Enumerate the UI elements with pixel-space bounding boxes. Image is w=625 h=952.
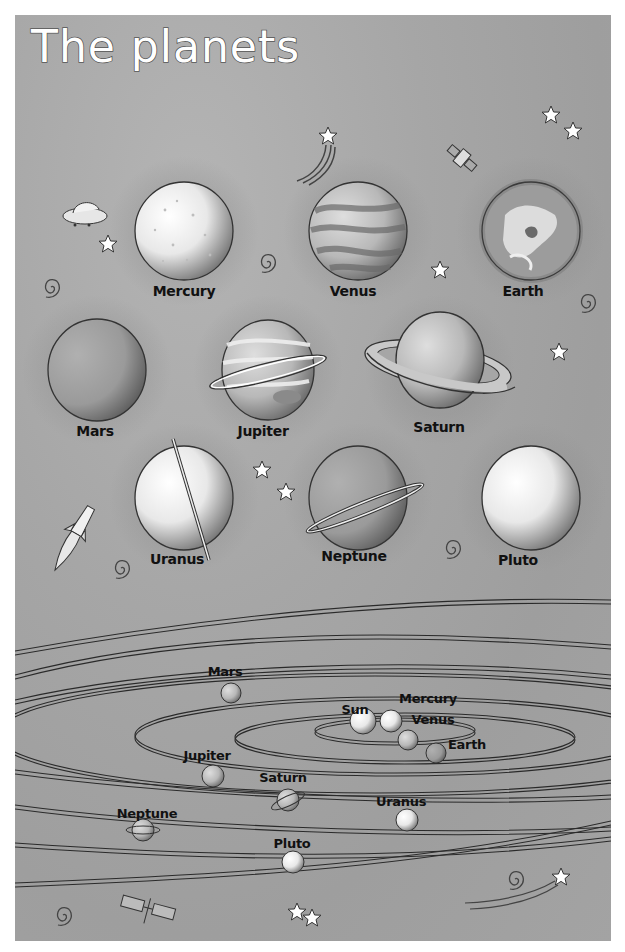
uranus-body xyxy=(396,809,418,831)
jupiter-body xyxy=(202,765,224,787)
venus-body xyxy=(398,730,418,750)
orbit-label-sun: Sun xyxy=(342,702,369,717)
pluto-body xyxy=(282,851,304,873)
orbit-label-earth: Earth xyxy=(448,737,486,752)
illustration-canvas: The planets Mercury Venus Earth Mars Jup… xyxy=(15,15,611,941)
mercury-body xyxy=(380,710,402,732)
pluto-planet xyxy=(482,446,580,550)
label-neptune: Neptune xyxy=(321,548,386,564)
label-mercury: Mercury xyxy=(153,283,216,299)
spiral-galaxy-icon xyxy=(262,255,276,273)
space-probe-icon xyxy=(118,891,177,930)
orbit-label-uranus: Uranus xyxy=(376,794,426,809)
neptune-body xyxy=(126,819,160,841)
star-icon xyxy=(550,343,568,360)
mars-planet xyxy=(48,319,146,421)
shooting-star-icon xyxy=(465,868,570,909)
star-icon xyxy=(303,909,321,926)
orbit-label-neptune: Neptune xyxy=(117,806,177,821)
mercury-planet xyxy=(135,182,233,280)
flying-saucer-icon xyxy=(63,203,107,227)
spiral-galaxy-icon xyxy=(447,541,461,559)
orbit-label-jupiter: Jupiter xyxy=(183,748,230,763)
earth-body xyxy=(426,743,446,763)
orbit-lines xyxy=(15,599,611,887)
spiral-galaxy-icon xyxy=(582,295,596,313)
label-uranus: Uranus xyxy=(150,551,204,567)
earth-planet xyxy=(482,182,580,280)
spiral-galaxy-icon xyxy=(116,561,130,579)
orbit-label-venus: Venus xyxy=(412,712,455,727)
mars-body xyxy=(221,683,241,703)
orbit-label-mercury: Mercury xyxy=(399,691,457,706)
orbit-label-pluto: Pluto xyxy=(274,836,311,851)
spiral-galaxy-icon xyxy=(58,908,72,926)
star-icon xyxy=(542,106,560,123)
label-venus: Venus xyxy=(330,283,376,299)
venus-planet xyxy=(309,182,407,280)
satellite-icon xyxy=(445,142,480,175)
star-icon xyxy=(564,122,582,139)
label-mars: Mars xyxy=(76,423,113,439)
rocket-icon xyxy=(45,502,102,576)
star-icon xyxy=(431,261,449,278)
orbit-label-saturn: Saturn xyxy=(259,770,306,785)
star-icon xyxy=(288,903,306,920)
label-saturn: Saturn xyxy=(413,419,464,435)
label-pluto: Pluto xyxy=(498,552,538,568)
label-earth: Earth xyxy=(502,283,543,299)
page-title: The planets xyxy=(31,21,300,72)
star-icon xyxy=(253,461,271,478)
orbit-label-mars: Mars xyxy=(208,664,243,679)
label-jupiter: Jupiter xyxy=(238,423,289,439)
spiral-galaxy-icon xyxy=(46,280,60,298)
illustration-art xyxy=(15,15,611,941)
